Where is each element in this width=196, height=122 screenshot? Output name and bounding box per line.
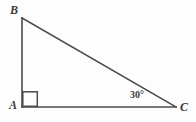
side-bc-hypotenuse (22, 18, 176, 107)
angle-measure-label-c: 30° (130, 90, 144, 100)
right-angle-marker-icon (23, 92, 38, 107)
triangle-drawing (0, 0, 196, 122)
vertex-label-c: C (180, 101, 188, 113)
vertex-label-b: B (10, 4, 18, 16)
vertex-label-a: A (9, 99, 17, 111)
geometry-figure-canvas: B A C 30° (0, 0, 196, 122)
